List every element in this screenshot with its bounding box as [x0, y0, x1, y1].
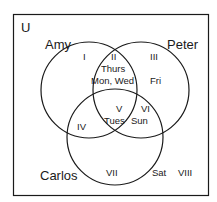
- set-label-peter: Peter: [167, 37, 199, 52]
- region-vi-items: Sun: [131, 115, 148, 126]
- region-v-items: Tues: [104, 115, 125, 126]
- set-label-carlos: Carlos: [40, 168, 78, 183]
- set-label-amy: Amy: [45, 37, 72, 52]
- region-ii-items-line1: Thurs: [101, 63, 126, 74]
- region-numeral-v: V: [116, 103, 123, 114]
- region-numeral-i: I: [83, 51, 86, 62]
- region-numeral-vi: VI: [141, 103, 150, 114]
- region-numeral-iii: III: [150, 51, 158, 62]
- region-numeral-ii: II: [111, 51, 116, 62]
- region-numeral-vii: VII: [106, 167, 118, 178]
- region-numeral-iv: IV: [77, 121, 87, 132]
- outside-items: Sat: [152, 167, 167, 178]
- region-iii-items: Fri: [150, 75, 161, 86]
- region-numeral-viii: VIII: [178, 167, 192, 178]
- region-ii-items-line2: Mon, Wed: [91, 75, 134, 86]
- venn-diagram: U Amy Peter Carlos I II Thurs Mon, Wed I…: [0, 0, 217, 202]
- universe-label: U: [21, 20, 30, 35]
